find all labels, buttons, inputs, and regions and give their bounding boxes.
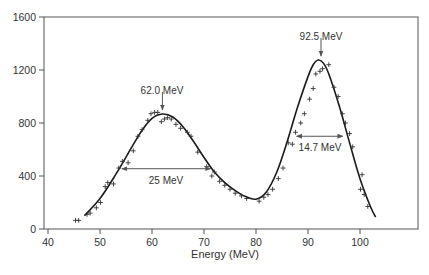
plus-marker-icon xyxy=(270,187,275,192)
plus-marker-icon xyxy=(94,205,99,210)
width2-label: 14.7 MeV xyxy=(299,142,342,153)
x-axis-label: Energy (MeV) xyxy=(191,248,259,260)
energy-spectrum-chart: 040080012001600 405060708090100 Energy (… xyxy=(0,0,429,275)
x-axis: 405060708090100 xyxy=(42,229,369,248)
plus-marker-icon xyxy=(302,111,307,116)
annotations: 62.0 MeV 92.5 MeV 25 MeV 14.7 MeV xyxy=(122,31,343,186)
x-tick-label: 100 xyxy=(351,236,369,248)
y-tick-label: 1200 xyxy=(13,64,37,76)
y-tick-label: 1600 xyxy=(13,11,37,23)
y-tick-label: 400 xyxy=(18,170,36,182)
x-tick-label: 90 xyxy=(302,236,314,248)
plus-marker-icon xyxy=(293,130,298,135)
fit-curve xyxy=(84,60,375,217)
plus-marker-icon xyxy=(360,172,365,177)
plus-marker-icon xyxy=(311,86,316,91)
plus-marker-icon xyxy=(209,174,214,179)
plus-marker-icon xyxy=(281,166,286,171)
plus-marker-icon xyxy=(320,66,325,71)
plus-marker-icon xyxy=(131,148,136,153)
x-tick-label: 60 xyxy=(146,236,158,248)
plus-marker-icon xyxy=(298,121,303,126)
plus-marker-icon xyxy=(276,176,281,181)
x-tick-label: 50 xyxy=(94,236,106,248)
width1-label: 25 MeV xyxy=(149,175,184,186)
fit-line xyxy=(84,60,375,217)
plus-marker-icon xyxy=(126,160,131,165)
plus-marker-icon xyxy=(318,69,323,74)
x-tick-label: 80 xyxy=(250,236,262,248)
plus-marker-icon xyxy=(159,119,164,124)
y-tick-label: 0 xyxy=(30,223,36,235)
plus-marker-icon xyxy=(358,187,363,192)
plus-marker-icon xyxy=(76,218,81,223)
y-axis: 040080012001600 xyxy=(13,11,44,235)
plus-marker-icon xyxy=(145,118,150,123)
x-tick-label: 40 xyxy=(42,236,54,248)
y-tick-label: 800 xyxy=(18,117,36,129)
plus-marker-icon xyxy=(307,97,312,102)
plus-marker-icon xyxy=(326,62,331,67)
plus-marker-icon xyxy=(313,72,318,77)
plus-marker-icon xyxy=(111,182,116,187)
x-tick-label: 70 xyxy=(198,236,210,248)
plus-marker-icon xyxy=(174,122,179,127)
plus-marker-icon xyxy=(290,142,295,147)
